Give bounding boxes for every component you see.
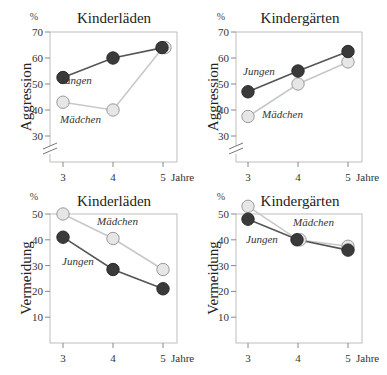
- data-point-maedchen: [107, 104, 119, 116]
- data-point-maedchen: [242, 110, 254, 122]
- y-tick-label: 70: [32, 26, 44, 38]
- series-label-jungen: Jungen: [62, 255, 94, 267]
- x-tick-label: 5: [160, 352, 166, 364]
- chart-panel-2: 3040506070345JahreKindergärtenAggression…: [205, 10, 379, 183]
- y-axis-unit: %: [217, 11, 225, 22]
- y-tick-label: 50: [32, 208, 44, 220]
- x-axis-unit: Jahre: [356, 171, 379, 183]
- y-axis-label: Vermeidung: [205, 241, 221, 315]
- x-axis-unit: Jahre: [356, 352, 379, 364]
- x-tick-label: 4: [110, 171, 116, 183]
- x-tick-label: 3: [60, 171, 66, 183]
- data-point-jungen: [242, 213, 254, 225]
- data-point-jungen: [107, 263, 119, 275]
- y-axis-label: Vermeidung: [18, 241, 34, 315]
- data-point-jungen: [107, 52, 119, 64]
- data-point-jungen: [292, 65, 304, 77]
- series-label-maedchen: Mädchen: [96, 215, 138, 227]
- data-point-maedchen: [242, 200, 254, 212]
- series-label-maedchen: Mädchen: [261, 108, 303, 120]
- chart-title: Kinderläden: [77, 193, 152, 209]
- y-tick-label: 70: [218, 26, 230, 38]
- series-label-jungen: Jungen: [246, 233, 278, 245]
- chart-panel-3: 1020304050345JahreKinderlädenVermeidung%…: [18, 191, 194, 364]
- data-point-maedchen: [107, 232, 119, 244]
- y-tick-label: 60: [32, 52, 44, 64]
- axis-break-mark: [229, 148, 243, 154]
- x-tick-label: 3: [245, 171, 251, 183]
- x-axis-unit: Jahre: [171, 352, 194, 364]
- data-point-jungen: [342, 45, 354, 57]
- x-tick-label: 4: [295, 352, 301, 364]
- data-point-jungen: [342, 244, 354, 256]
- chart-panel-1: 3040506070345JahreKinderlädenAggression%…: [18, 10, 194, 183]
- data-point-maedchen: [57, 96, 69, 108]
- data-point-jungen: [157, 283, 169, 295]
- chart-panel-4: 1020304050345JahreKindergärtenVermeidung…: [205, 191, 379, 364]
- y-tick-label: 60: [218, 52, 230, 64]
- x-tick-label: 5: [345, 352, 351, 364]
- x-tick-label: 4: [110, 352, 116, 364]
- data-point-jungen: [291, 234, 303, 246]
- x-tick-label: 3: [60, 352, 66, 364]
- series-label-maedchen: Mädchen: [292, 216, 334, 228]
- x-tick-label: 4: [295, 171, 301, 183]
- chart-title: Kindergärten: [261, 10, 340, 26]
- data-point-jungen: [57, 231, 69, 243]
- y-axis-unit: %: [30, 191, 38, 202]
- data-point-maedchen: [157, 263, 169, 275]
- data-point-jungen: [242, 86, 254, 98]
- series-label-jungen: Jungen: [243, 65, 275, 77]
- x-tick-label: 3: [245, 352, 251, 364]
- data-point-maedchen: [292, 78, 304, 90]
- data-point-jungen: [156, 41, 168, 53]
- y-axis-unit: %: [217, 191, 225, 202]
- x-axis-unit: Jahre: [171, 171, 194, 183]
- series-label-maedchen: Mädchen: [59, 113, 101, 125]
- y-axis-label: Aggression: [205, 62, 221, 131]
- x-tick-label: 5: [160, 171, 166, 183]
- chart-title: Kindergärten: [261, 193, 340, 209]
- data-point-maedchen: [57, 208, 69, 220]
- y-tick-label: 50: [218, 208, 230, 220]
- x-tick-label: 5: [345, 171, 351, 183]
- y-axis-label: Aggression: [18, 62, 34, 131]
- series-label-jungen: Jungen: [60, 74, 92, 86]
- figure: 3040506070345JahreKinderlädenAggression%…: [0, 0, 387, 375]
- y-axis-unit: %: [30, 11, 38, 22]
- chart-title: Kinderläden: [77, 10, 152, 26]
- axis-break-mark: [43, 148, 57, 154]
